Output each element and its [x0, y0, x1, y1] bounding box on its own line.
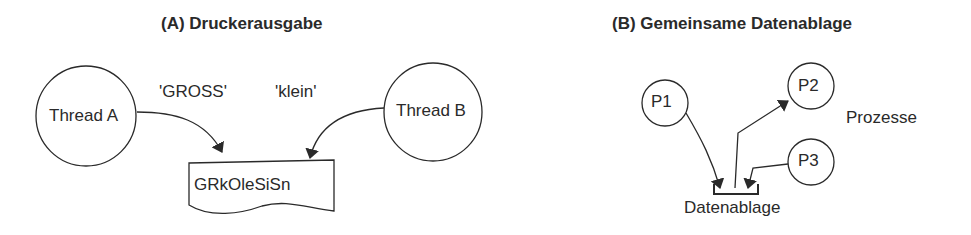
arrow-p3-to-storage [748, 164, 788, 188]
string-klein-label: 'klein' [275, 82, 316, 102]
diagram-canvas [0, 0, 971, 235]
arrow-storage-to-p2 [735, 101, 788, 188]
panel-a-title: (A) Druckerausgabe [161, 14, 323, 34]
storage-bracket [714, 184, 758, 194]
panel-b-title: (B) Gemeinsame Datenablage [612, 14, 852, 34]
p3-label: P3 [798, 151, 819, 171]
arrow-thread-b-to-output [310, 108, 384, 158]
storage-label: Datenablage [684, 198, 780, 218]
thread-a-label: Thread A [49, 106, 118, 126]
arrow-thread-a-to-output [137, 112, 222, 152]
output-text: GRkOleSiSn [194, 175, 290, 195]
thread-b-label: Thread B [396, 101, 466, 121]
string-gross-label: 'GROSS' [159, 82, 227, 102]
p1-label: P1 [651, 92, 672, 112]
p2-label: P2 [798, 76, 819, 96]
arrow-p1-to-storage [686, 113, 720, 188]
processes-label: Prozesse [846, 108, 917, 128]
